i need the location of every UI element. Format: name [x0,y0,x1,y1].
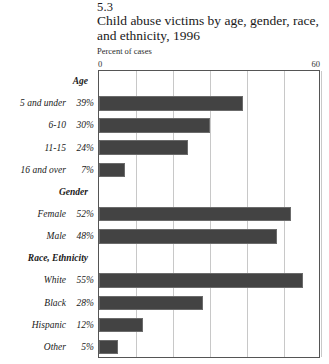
category-label: 6-1030% [0,114,94,136]
bar [99,229,277,244]
bar-row [99,137,319,159]
bar [99,207,291,222]
bar-row [99,226,319,248]
category-name: Hispanic [32,320,66,330]
bar-rows [99,71,319,357]
category-label: 16 and over7% [0,159,94,181]
bar [99,163,125,178]
section-spacer-row [99,182,319,204]
bar-row [99,315,319,337]
category-value: 7% [68,165,94,175]
plot-area [98,70,320,358]
bar [99,318,143,333]
bar-row [99,270,319,292]
bar-row [99,93,319,115]
category-value: 30% [68,120,94,130]
category-value: 12% [68,320,94,330]
x-axis-tick-labels: 0 60 [98,59,320,70]
bar [99,140,188,155]
category-label: Hispanic12% [0,314,94,336]
figure-subtitle: Percent of cases [97,46,325,56]
category-label: 11-1524% [0,136,94,158]
category-name: 5 and under [20,98,66,108]
category-label: White55% [0,269,94,291]
bar [99,96,243,111]
section-heading: Race, Ethnicity [0,247,94,269]
section-heading-label: Race, Ethnicity [28,253,88,263]
category-label: Black28% [0,292,94,314]
category-value: 55% [68,275,94,285]
category-name: 6-10 [49,120,66,130]
section-heading: Age [0,70,94,92]
bar-row [99,160,319,182]
bar [99,296,203,311]
category-value: 39% [68,98,94,108]
section-heading-label: Gender [59,187,88,197]
bar [99,118,210,133]
figure-header: 5.3 Child abuse victims by age, gender, … [97,1,325,56]
category-name: White [44,275,66,285]
category-value: 28% [68,298,94,308]
section-spacer-row [99,71,319,93]
figure-title: Child abuse victims by age, gender, race… [97,14,325,43]
x-axis-tick-max: 60 [312,59,321,69]
bar [99,273,303,288]
category-name: Other [44,342,66,352]
bar-row [99,115,319,137]
section-spacer-row [99,248,319,270]
category-label: Female52% [0,203,94,225]
category-label: 5 and under39% [0,92,94,114]
category-value: 48% [68,231,94,241]
bar [99,340,118,355]
category-value: 52% [68,209,94,219]
category-label-column: Age5 and under39%6-1030%11-1524%16 and o… [0,70,94,358]
category-name: 16 and over [21,165,66,175]
figure-container: 5.3 Child abuse victims by age, gender, … [0,0,329,364]
gridline-60 [321,71,322,357]
category-name: Female [38,209,67,219]
bar-row [99,204,319,226]
bar-row [99,293,319,315]
category-label: Male48% [0,225,94,247]
section-heading-label: Age [73,76,88,86]
category-name: Black [44,298,66,308]
x-axis-tick-min: 0 [98,59,102,69]
category-name: 11-15 [45,143,66,153]
category-name: Male [46,231,66,241]
category-value: 5% [68,342,94,352]
section-heading: Gender [0,181,94,203]
category-label: Other5% [0,336,94,358]
bar-row [99,337,319,359]
category-value: 24% [68,143,94,153]
